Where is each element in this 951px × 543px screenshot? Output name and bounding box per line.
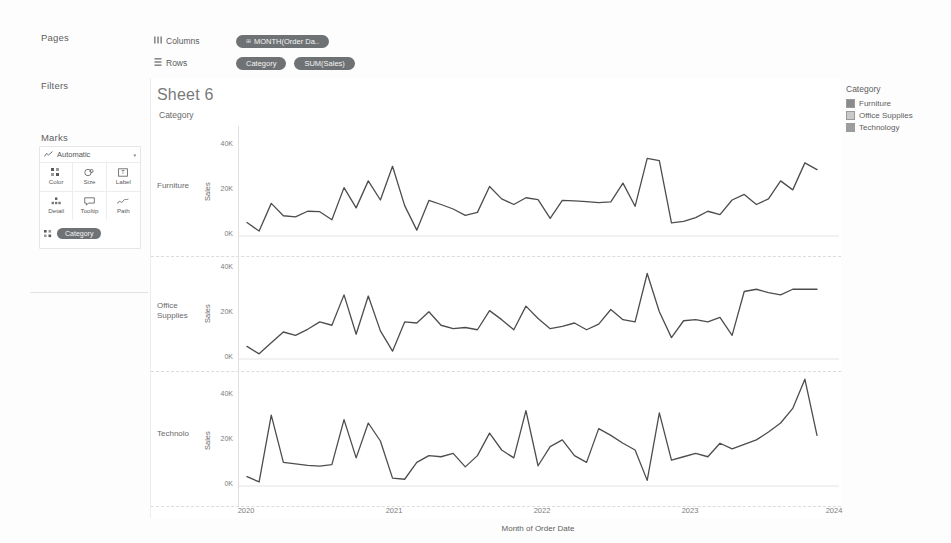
legend-item-furniture[interactable]: Furniture [846, 99, 942, 108]
color-icon [44, 224, 54, 242]
rows-shelf[interactable]: Rows Category SUM(Sales) [150, 52, 951, 74]
marks-label-label: Label [116, 179, 131, 185]
label-icon: T [118, 168, 128, 177]
tableau-worksheet: Pages Filters Marks Automatic ▾ [0, 0, 951, 543]
marks-tooltip-button[interactable]: Tooltip [73, 192, 106, 220]
page-title: Sheet 6 [157, 86, 214, 104]
marks-path-button[interactable]: Path [107, 192, 140, 220]
row-header-technology: Technolo [157, 429, 201, 439]
detail-icon [51, 197, 62, 206]
row-field-label: Category [159, 110, 194, 120]
legend-item-office-supplies[interactable]: Office Supplies [846, 111, 942, 120]
plot-area: Furniture Sales 40K 20K 0K Office Suppli… [151, 126, 841, 518]
line-panel-furniture[interactable] [238, 126, 838, 256]
columns-shelf[interactable]: Columns ⊞ MONTH(Order Da.. [150, 30, 951, 52]
y-tick-40k: 40K [211, 140, 233, 147]
y-tick-20k: 20K [211, 185, 233, 192]
columns-shelf-label-group: Columns [150, 36, 216, 46]
legend-swatch-office-supplies [846, 111, 855, 120]
x-tick-2020: 2020 [238, 506, 255, 515]
svg-text:T: T [122, 170, 126, 176]
pages-card: Pages [30, 22, 148, 71]
marks-color-button[interactable]: Color [40, 163, 73, 192]
marks-size-label: Size [83, 179, 95, 185]
legend-label-office-supplies: Office Supplies [859, 111, 913, 120]
y-axis-title: Sales [203, 170, 215, 214]
columns-icon [154, 36, 162, 46]
shelf-area: Columns ⊞ MONTH(Order Da.. Rows Category… [150, 30, 951, 78]
legend-title: Category [846, 84, 942, 94]
marks-detail-button[interactable]: Detail [40, 192, 73, 220]
marks-category-pill[interactable]: Category [57, 228, 101, 239]
marks-card-title: Marks [30, 122, 148, 143]
worksheet-view: Sheet 6 Category Furniture Sales 40K 20K… [150, 78, 841, 518]
row-header-office-supplies: Office Supplies [157, 301, 201, 321]
pill-sum-sales[interactable]: SUM(Sales) [294, 57, 354, 70]
legend-swatch-technology [846, 123, 855, 132]
pages-card-title: Pages [30, 22, 148, 43]
pill-month-order-date[interactable]: ⊞ MONTH(Order Da.. [236, 35, 329, 48]
y-tick-0k: 0K [211, 230, 233, 237]
marks-pill-row: Category [40, 220, 140, 248]
legend-label-furniture: Furniture [859, 99, 891, 108]
x-tick-2022: 2022 [534, 506, 551, 515]
marks-label-button[interactable]: T Label [107, 163, 140, 192]
columns-label: Columns [166, 36, 200, 46]
legend-label-technology: Technology [859, 123, 899, 132]
size-icon [84, 168, 95, 177]
date-field-icon: ⊞ [246, 35, 251, 48]
marks-button-grid: Color Size T Label [40, 163, 140, 220]
rows-icon [154, 58, 162, 68]
rows-pills: Category SUM(Sales) [216, 57, 355, 70]
chart-row-office-supplies: Office Supplies Sales 40K 20K 0K [151, 256, 841, 371]
tooltip-icon [84, 197, 95, 206]
color-legend: Category Furniture Office Supplies Techn… [846, 84, 942, 135]
marks-detail-label: Detail [48, 208, 64, 214]
mark-type-label: Automatic [57, 150, 129, 159]
marks-path-label: Path [117, 208, 130, 214]
y-tick-0k: 0K [211, 353, 233, 360]
x-axis-title: Month of Order Date [238, 524, 838, 533]
marks-box: Automatic ▾ Color [39, 146, 141, 249]
legend-swatch-furniture [846, 99, 855, 108]
y-tick-0k: 0K [211, 480, 233, 487]
filters-card-title: Filters [30, 70, 148, 91]
pill-month-order-date-label: MONTH(Order Da.. [254, 35, 319, 48]
row-header-furniture: Furniture [157, 181, 201, 191]
path-icon [117, 197, 129, 206]
legend-item-technology[interactable]: Technology [846, 123, 942, 132]
chart-row-technology: Technolo Sales 40K 20K 0K [151, 371, 841, 506]
mark-type-dropdown[interactable]: Automatic ▾ [40, 147, 140, 163]
filters-card: Filters [30, 70, 148, 123]
mark-type-icon [44, 150, 53, 159]
line-panel-office-supplies[interactable] [238, 256, 838, 371]
marks-tooltip-label: Tooltip [81, 208, 99, 214]
color-icon [51, 168, 62, 177]
x-tick-2023: 2023 [682, 506, 699, 515]
marks-color-label: Color [49, 179, 64, 185]
marks-card: Marks Automatic ▾ [30, 122, 148, 293]
y-tick-40k: 40K [211, 390, 233, 397]
x-axis-line [151, 506, 841, 507]
columns-pills: ⊞ MONTH(Order Da.. [216, 35, 329, 48]
x-tick-2021: 2021 [386, 506, 403, 515]
left-card-column: Pages Filters Marks Automatic ▾ [30, 22, 148, 292]
y-tick-40k: 40K [211, 263, 233, 270]
y-tick-20k: 20K [211, 308, 233, 315]
y-tick-20k: 20K [211, 435, 233, 442]
line-panel-technology[interactable] [238, 371, 838, 506]
marks-size-button[interactable]: Size [73, 163, 106, 192]
rows-label: Rows [166, 58, 187, 68]
chevron-down-icon[interactable]: ▾ [133, 152, 136, 158]
pill-category[interactable]: Category [236, 57, 286, 70]
chart-row-furniture: Furniture Sales 40K 20K 0K [151, 126, 841, 256]
x-tick-2024: 2024 [826, 506, 843, 515]
rows-shelf-label-group: Rows [150, 58, 216, 68]
